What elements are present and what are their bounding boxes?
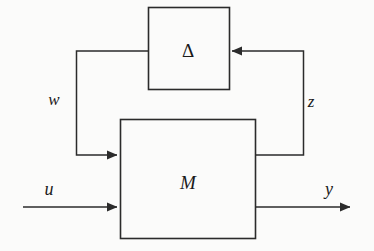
z-feedback-path — [232, 51, 304, 155]
m-block-label: M — [180, 173, 196, 192]
signal-label-z: z — [308, 93, 315, 110]
signal-label-u: u — [45, 180, 54, 198]
delta-block-label: Δ — [182, 41, 194, 60]
diagram-vector-layer — [0, 0, 374, 251]
signal-label-y: y — [325, 180, 333, 198]
signal-label-w: w — [48, 91, 59, 108]
w-feedback-path — [77, 51, 149, 155]
block-diagram-canvas: Δ M w z u y — [0, 0, 374, 251]
